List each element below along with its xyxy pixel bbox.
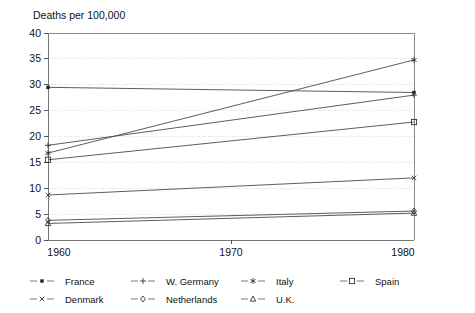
filled-square-marker — [46, 86, 49, 89]
y-tick-label: 0 — [35, 234, 41, 246]
series-denmark — [46, 176, 417, 198]
x-tick-label: 1960 — [47, 246, 71, 258]
series-line — [48, 60, 414, 153]
legend-item-netherlands[interactable]: Netherlands — [131, 294, 217, 305]
legend-label: U.K. — [276, 294, 294, 305]
series-line — [48, 178, 414, 195]
plus-marker — [140, 278, 146, 284]
y-tick-label: 10 — [29, 182, 41, 194]
series-spain — [45, 119, 416, 162]
legend-item-france[interactable]: France — [30, 276, 95, 287]
filled-square-marker — [40, 279, 43, 282]
x-axis-ticks: 196019701980 — [47, 240, 415, 258]
series-line — [48, 211, 414, 220]
y-tick-label: 20 — [29, 130, 41, 142]
legend-item-spain[interactable]: Spain — [340, 276, 399, 287]
y-tick-label: 5 — [35, 208, 41, 220]
series-netherlands — [46, 208, 417, 223]
x-tick-label: 1970 — [219, 246, 243, 258]
asterisk-marker — [250, 278, 255, 284]
plot-frame — [48, 33, 414, 240]
y-axis-ticks: 0510152025303540 — [29, 27, 48, 246]
legend-item-denmark[interactable]: Denmark — [30, 294, 104, 305]
series-line — [48, 95, 414, 145]
line-chart: Deaths per 100,000 0510152025303540 1960… — [0, 0, 475, 313]
legend-label: Netherlands — [166, 294, 217, 305]
x-tick-label: 1980 — [391, 246, 415, 258]
series-line — [48, 122, 414, 160]
plus-marker — [411, 92, 417, 98]
legend-item-italy[interactable]: Italy — [241, 276, 294, 287]
cross-x-marker — [40, 297, 45, 302]
series-line — [48, 87, 414, 92]
legend-label: France — [65, 276, 95, 287]
y-tick-label: 40 — [29, 27, 41, 39]
gridlines — [49, 59, 413, 214]
series-line — [48, 213, 414, 223]
open-triangle-marker — [250, 296, 255, 301]
y-tick-label: 25 — [29, 104, 41, 116]
open-square-marker — [349, 278, 354, 283]
open-diamond-marker — [141, 296, 146, 302]
y-tick-label: 30 — [29, 78, 41, 90]
legend-label: Denmark — [65, 294, 104, 305]
legend-item-u-k[interactable]: U.K. — [241, 294, 294, 305]
legend-item-w-germany[interactable]: W. Germany — [131, 276, 219, 287]
y-tick-label: 15 — [29, 156, 41, 168]
chart-container: Deaths per 100,000 0510152025303540 1960… — [0, 0, 475, 313]
asterisk-marker — [45, 150, 50, 156]
legend-label: W. Germany — [166, 276, 219, 287]
chart-legend: FranceW. GermanyItalySpainDenmarkNetherl… — [30, 276, 399, 305]
series-france — [46, 86, 415, 95]
asterisk-marker — [411, 57, 416, 63]
data-series-group — [45, 57, 417, 226]
chart-title: Deaths per 100,000 — [33, 9, 125, 21]
legend-label: Italy — [276, 276, 294, 287]
legend-label: Spain — [375, 276, 399, 287]
y-tick-label: 35 — [29, 52, 41, 64]
plus-marker — [45, 142, 51, 148]
